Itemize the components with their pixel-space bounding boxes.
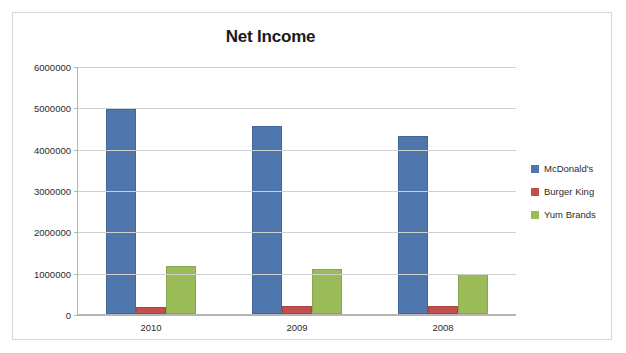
gridline [78,108,516,109]
x-axis-tick-label: 2009 [224,322,370,333]
bar-burger-king-2010[interactable] [136,307,166,314]
chart-page: Net Income 201020092008 6000000500000040… [0,0,626,353]
legend-item-mcdonald-s[interactable]: McDonald's [531,163,613,174]
legend-swatch-icon [531,165,539,173]
gridline [78,150,516,151]
y-axis-tick-label: 4000000 [34,144,71,155]
legend-swatch-icon [531,211,539,219]
bar-burger-king-2009[interactable] [282,306,312,314]
y-axis-tick-mark [74,232,78,233]
gridline [78,274,516,275]
legend-item-yum-brands[interactable]: Yum Brands [531,209,613,220]
y-axis-tick-label: 2000000 [34,227,71,238]
bar-mcdonald-s-2008[interactable] [398,136,428,314]
y-axis-tick-mark [74,315,78,316]
y-axis-tick-label: 5000000 [34,103,71,114]
y-axis-tick-mark [74,150,78,151]
legend-label: Burger King [544,186,594,197]
legend-label: McDonald's [544,163,593,174]
y-axis-tick-mark [74,191,78,192]
chart-title: Net Income [13,27,528,47]
y-axis-tick-label: 6000000 [34,62,71,73]
legend-item-burger-king[interactable]: Burger King [531,186,613,197]
x-axis-tick-label: 2010 [78,322,224,333]
plot-area: 201020092008 600000050000004000000300000… [77,67,516,315]
y-axis-tick-label: 0 [66,310,71,321]
legend-label: Yum Brands [544,209,596,220]
y-axis-tick-mark [74,274,78,275]
gridline [78,315,516,316]
y-axis-tick-mark [74,108,78,109]
bar-burger-king-2008[interactable] [428,306,458,314]
gridline [78,232,516,233]
y-axis-tick-label: 1000000 [34,268,71,279]
gridline [78,191,516,192]
legend-swatch-icon [531,188,539,196]
gridline [78,67,516,68]
bar-yum-brands-2008[interactable] [458,274,488,314]
y-axis-tick-label: 3000000 [34,186,71,197]
bar-mcdonald-s-2009[interactable] [252,126,282,314]
chart-card: Net Income 201020092008 6000000500000040… [12,12,612,340]
bar-yum-brands-2009[interactable] [312,269,342,314]
x-axis-tick-label: 2008 [370,322,516,333]
y-axis-tick-mark [74,67,78,68]
chart-legend: McDonald'sBurger KingYum Brands [531,163,613,232]
bar-mcdonald-s-2010[interactable] [106,109,136,314]
